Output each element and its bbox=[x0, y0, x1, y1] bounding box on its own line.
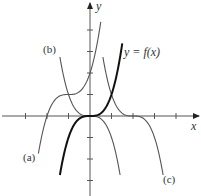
curve-c-label: (c) bbox=[163, 173, 176, 186]
graph-canvas: x y y = f(x) (a) (b) (c) bbox=[0, 0, 201, 196]
curve-a-label: (a) bbox=[23, 151, 36, 164]
y-axis-label: y bbox=[95, 0, 102, 13]
curve-b-label: (b) bbox=[43, 43, 56, 56]
x-axis-label: x bbox=[190, 119, 197, 133]
curve-f bbox=[60, 43, 122, 175]
graph-figure: x y y = f(x) (a) (b) (c) bbox=[0, 0, 201, 196]
curve-f-label: y = f(x) bbox=[123, 45, 160, 59]
